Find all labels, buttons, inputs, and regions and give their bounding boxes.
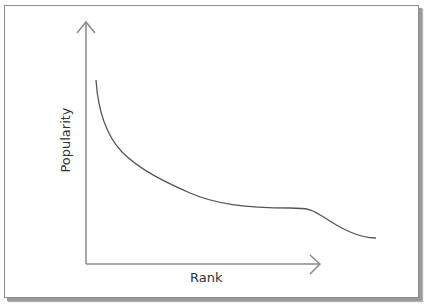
y-axis: [77, 22, 95, 264]
popularity-curve: [96, 80, 376, 238]
y-axis-label: Popularity: [58, 107, 73, 172]
x-axis-label: Rank: [190, 270, 222, 285]
